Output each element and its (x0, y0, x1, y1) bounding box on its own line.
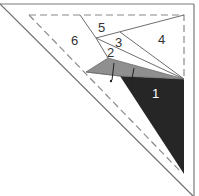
tick-dot (110, 80, 112, 82)
label-piece-2: 2 (107, 45, 114, 60)
label-piece-4: 4 (158, 32, 165, 47)
label-piece-3: 3 (115, 35, 122, 50)
label-piece-1: 1 (152, 86, 159, 101)
line-5-4 (96, 15, 184, 38)
label-piece-6: 6 (71, 33, 78, 48)
line-5-6 (80, 15, 96, 38)
pattern-diagram: 1 2 3 4 5 6 (0, 0, 199, 196)
label-piece-5: 5 (98, 20, 105, 35)
